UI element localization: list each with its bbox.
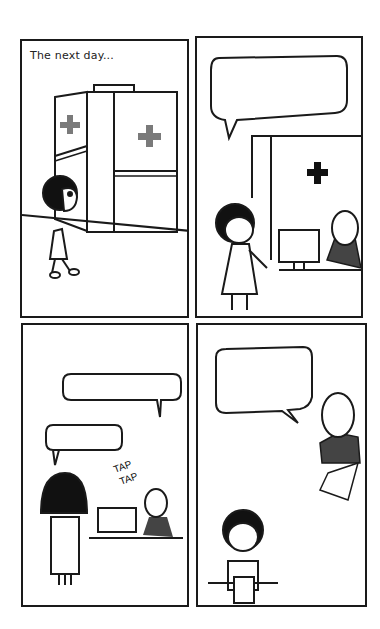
speech-bubble bbox=[216, 347, 312, 423]
speech-bubble bbox=[63, 374, 181, 417]
reception-back-view-drawing: TAP TAP bbox=[23, 325, 189, 607]
comic-panel-2 bbox=[195, 36, 363, 318]
speech-bubble bbox=[211, 56, 347, 138]
clinic-entrance-drawing bbox=[22, 41, 189, 318]
speech-bubble bbox=[46, 425, 122, 465]
cross-icon bbox=[307, 162, 328, 184]
comic-panel-3: TAP TAP bbox=[21, 323, 189, 607]
girl-character bbox=[41, 473, 87, 585]
girl-character bbox=[208, 510, 278, 603]
form-paper bbox=[320, 463, 358, 500]
handing-form-drawing bbox=[198, 325, 367, 607]
panel-caption: The next day... bbox=[30, 49, 114, 62]
reception-desk-drawing bbox=[197, 38, 363, 318]
comic-panel-4 bbox=[196, 323, 367, 607]
girl-character bbox=[216, 204, 267, 310]
comic-panel-1: The next day... bbox=[20, 39, 189, 318]
